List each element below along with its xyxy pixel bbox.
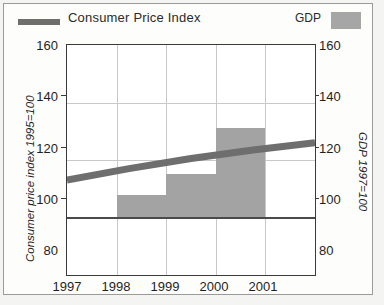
y-tick-left-160: 160	[18, 38, 58, 53]
legend-bar-swatch	[331, 12, 361, 29]
cpi-line	[67, 45, 315, 275]
chart-frame: Consumer Price Index GDP 160 140 120 100…	[3, 3, 373, 295]
chart-legend: Consumer Price Index GDP	[4, 4, 374, 34]
x-tick-1997: 1997	[42, 279, 92, 294]
legend-line-swatch	[18, 19, 60, 25]
legend-label-gdp: GDP	[295, 11, 321, 25]
y-axis-title-left: Consumer price index 1995=100	[24, 95, 36, 262]
y-tick-right-100: 100	[319, 192, 359, 207]
x-tick-2000: 2000	[189, 279, 239, 294]
x-tick-2001: 2001	[238, 279, 288, 294]
plot-area	[66, 44, 316, 276]
y-tick-right-120: 120	[319, 141, 359, 156]
y-tick-right-140: 140	[319, 89, 359, 104]
x-tick-1998: 1998	[91, 279, 141, 294]
y-axis-title-right: GDP 1997=100	[357, 132, 369, 211]
legend-label-cpi: Consumer Price Index	[68, 10, 201, 25]
y-tick-right-80: 80	[319, 243, 359, 258]
x-tick-1999: 1999	[140, 279, 190, 294]
y-tick-right-160: 160	[319, 38, 359, 53]
